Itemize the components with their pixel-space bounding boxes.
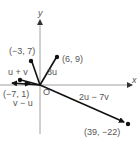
x-axis-label: x [131, 75, 137, 85]
point-label-neg3-7: (−3, 7) [9, 46, 35, 56]
vector-label-3u: 3u [47, 67, 57, 77]
point-label-39-neg22: (39, −22) [84, 127, 120, 137]
point-label-6-9: (6, 9) [62, 54, 83, 64]
point-neg3-7 [29, 59, 33, 63]
vector-2u-minus-7v [40, 85, 124, 122]
vector-label-v-minus-u: v − u [13, 98, 33, 108]
vector-diagram: y x O (−3, 7) (6, 9) 3u u + v (−7, 1) v … [0, 0, 139, 144]
vector-label-2u-minus-7v: 2u − 7v [79, 92, 109, 102]
point-39-neg22 [126, 122, 130, 126]
vector-v-minus-u-tail [24, 84, 30, 85]
vector-label-u-plus-v: u + v [8, 67, 28, 77]
y-axis-label: y [37, 8, 43, 18]
point-6-9 [55, 55, 59, 59]
vector-u-plus-v-to-neg3-7 [32, 62, 40, 85]
